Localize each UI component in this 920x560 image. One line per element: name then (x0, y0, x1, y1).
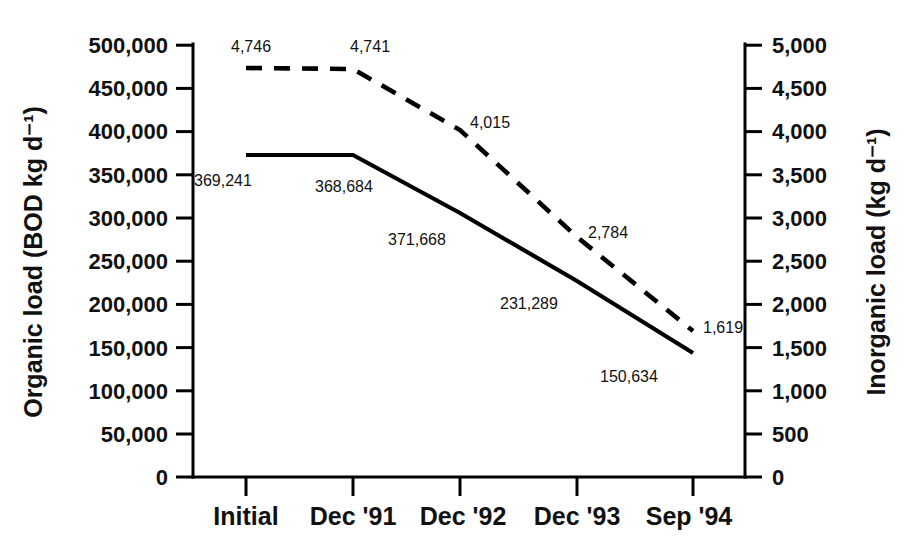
left-tick-label: 450,000 (88, 76, 168, 101)
right-axis-ticks (745, 45, 762, 477)
right-tick-label: 3,500 (772, 163, 827, 188)
right-tick-label: 2,000 (772, 292, 827, 317)
x-category-label-initial: Initial (213, 502, 278, 530)
left-tick-label: 300,000 (88, 206, 168, 231)
value-label-organic-sep-94: 150,634 (600, 368, 658, 385)
left-axis-title: Organic load (BOD kg d⁻¹) (19, 106, 47, 418)
value-label-organic-initial: 369,241 (194, 172, 252, 189)
series-inorganic-load-dashed (246, 68, 693, 331)
right-tick-label: 1,000 (772, 379, 827, 404)
right-tick-label: 4,500 (772, 76, 827, 101)
value-label-inorganic-dec-93: 2,784 (588, 224, 628, 241)
dashed-series-value-labels: 4,746 4,741 4,015 2,784 1,619 (231, 38, 743, 336)
right-tick-label: 3,000 (772, 206, 827, 231)
left-tick-label: 400,000 (88, 119, 168, 144)
left-tick-label: 50,000 (101, 422, 168, 447)
chart-figure: 500,000 450,000 400,000 350,000 300,000 … (0, 0, 920, 560)
right-tick-label: 2,500 (772, 249, 827, 274)
right-tick-label: 5,000 (772, 33, 827, 58)
x-category-label-dec-93: Dec '93 (534, 502, 621, 530)
value-label-organic-dec-93: 231,289 (500, 295, 558, 312)
left-tick-label: 0 (156, 465, 168, 490)
left-axis-tick-labels: 500,000 450,000 400,000 350,000 300,000 … (88, 33, 168, 490)
series-organic-load-solid (246, 155, 693, 353)
value-label-organic-dec-92: 371,668 (388, 231, 446, 248)
x-category-label-sep-94: Sep '94 (646, 502, 733, 530)
line-chart: 500,000 450,000 400,000 350,000 300,000 … (0, 0, 920, 560)
left-axis-ticks (176, 45, 193, 477)
right-tick-label: 1,500 (772, 336, 827, 361)
value-label-inorganic-dec-91: 4,741 (350, 38, 390, 55)
right-axis-title: Inorganic load (kg d⁻¹) (862, 128, 890, 395)
right-axis-tick-labels: 5,000 4,500 4,000 3,500 3,000 2,500 2,00… (772, 33, 827, 490)
value-label-organic-dec-91: 368,684 (315, 178, 373, 195)
x-axis-ticks (246, 477, 693, 496)
x-category-label-dec-91: Dec '91 (310, 502, 397, 530)
right-tick-label: 500 (772, 422, 809, 447)
value-label-inorganic-dec-92: 4,015 (470, 114, 510, 131)
axis-frame (193, 44, 745, 477)
left-tick-label: 350,000 (88, 163, 168, 188)
value-label-inorganic-initial: 4,746 (231, 38, 271, 55)
left-tick-label: 500,000 (88, 33, 168, 58)
left-tick-label: 100,000 (88, 379, 168, 404)
right-tick-label: 0 (772, 465, 784, 490)
value-label-inorganic-sep-94: 1,619 (703, 319, 743, 336)
right-tick-label: 4,000 (772, 119, 827, 144)
left-tick-label: 250,000 (88, 249, 168, 274)
left-tick-label: 150,000 (88, 336, 168, 361)
solid-series-value-labels: 369,241 368,684 371,668 231,289 150,634 (194, 172, 658, 385)
left-tick-label: 200,000 (88, 292, 168, 317)
x-category-label-dec-92: Dec '92 (420, 502, 507, 530)
x-axis-category-labels: Initial Dec '91 Dec '92 Dec '93 Sep '94 (213, 502, 732, 530)
